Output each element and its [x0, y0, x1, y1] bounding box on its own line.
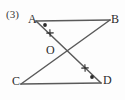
segment-bc	[21, 20, 110, 84]
vertex-label-a: A	[28, 13, 37, 25]
segment-group	[21, 20, 110, 84]
vertex-label-c: C	[12, 75, 20, 87]
geometry-figure: (3) A B C D O	[0, 0, 125, 100]
vertex-label-o: O	[46, 44, 55, 56]
vertex-label-b: B	[111, 13, 119, 25]
tick-x-AO-icon	[46, 29, 53, 36]
segment-ab	[36, 20, 110, 21]
vertex-label-d: D	[103, 74, 112, 86]
segment-cd	[21, 83, 101, 84]
angle-dot-A-icon	[43, 23, 47, 27]
angle-dot-D-icon	[90, 75, 94, 79]
